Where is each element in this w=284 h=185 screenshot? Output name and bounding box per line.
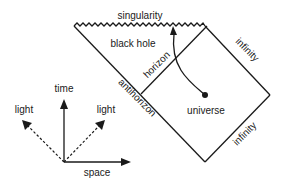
light-right-label: light (97, 104, 116, 115)
space-label: space (84, 167, 111, 178)
worldline-curve (173, 34, 205, 95)
worldline-arrowhead (170, 26, 177, 35)
time-label: time (55, 83, 74, 94)
universe-dot (202, 92, 208, 98)
singularity-line (74, 23, 205, 26)
black-hole-label: black hole (110, 38, 155, 49)
singularity-label: singularity (117, 10, 162, 21)
light-left-ray (28, 126, 64, 162)
penrose-diagram: singularity black hole universe horizon … (0, 0, 284, 185)
infinity-upper-label: infinity (234, 36, 262, 64)
horizon-label: horizon (141, 49, 172, 80)
infinity-lower-label: infinity (231, 120, 259, 148)
space-arrowhead (121, 158, 131, 166)
time-arrowhead (60, 99, 68, 109)
light-left-label: light (15, 104, 34, 115)
universe-label: universe (187, 105, 225, 116)
infinity-upper-line (205, 26, 270, 95)
light-right-ray (64, 126, 99, 162)
